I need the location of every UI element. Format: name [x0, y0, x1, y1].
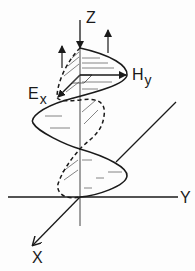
z-axis-label: Z — [86, 10, 96, 26]
e-field-wave — [57, 48, 104, 198]
y-axis-label: Y — [180, 190, 191, 206]
x-axis-label: X — [32, 250, 43, 266]
h-field-symbol: H — [132, 66, 144, 83]
e-field-label: Ex — [28, 86, 47, 102]
em-wave-diagram: Z Y X Ex Hy — [0, 0, 195, 271]
h-field-hatching — [45, 58, 122, 188]
h-field-subscript: y — [145, 72, 152, 88]
e-field-subscript: x — [40, 91, 47, 107]
y-axis-depth-line — [116, 102, 176, 162]
x-axis — [33, 197, 80, 245]
e-field-symbol: E — [28, 85, 39, 102]
h-field-label: Hy — [132, 67, 152, 83]
diagram-drawing — [0, 0, 195, 271]
